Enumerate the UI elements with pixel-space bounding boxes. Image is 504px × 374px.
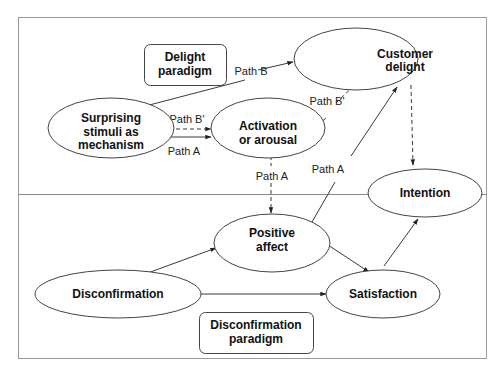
diagram-canvas: Delight paradigm Disconfirmation paradig… <box>0 0 504 374</box>
delight-paradigm-box: Delight paradigm <box>145 45 227 86</box>
node-positive-line-2: affect <box>256 240 288 254</box>
delight-paradigm-label-1: Delight <box>165 50 206 64</box>
edge-label-path-a-3: Path A <box>312 163 345 175</box>
node-activation-line-1: Activation <box>239 119 297 133</box>
edge-label-path-b-prime-1: Path B' <box>169 113 204 125</box>
node-surprising-line-3: mechanism <box>78 138 144 152</box>
node-positive-affect: Positive affect <box>214 214 330 272</box>
node-intention-line-1: Intention <box>400 186 451 200</box>
node-disconfirmation-line-1: Disconfirmation <box>72 287 163 301</box>
disconfirmation-paradigm-box: Disconfirmation paradigm <box>200 313 314 354</box>
node-delight-line-1: Customer <box>377 47 433 61</box>
disconfirmation-paradigm-label-2: paradigm <box>229 332 283 346</box>
delight-paradigm-label-2: paradigm <box>158 64 212 78</box>
node-surprising-line-2: stimuli as <box>83 125 139 139</box>
node-satisfaction: Satisfaction <box>326 270 440 318</box>
node-disconfirmation: Disconfirmation <box>35 270 201 318</box>
node-positive-line-1: Positive <box>249 226 295 240</box>
node-surprising-line-1: Surprising <box>81 111 141 125</box>
edge-label-path-b-prime-2: Path B' <box>309 95 344 107</box>
node-activation-line-2: or arousal <box>239 133 297 147</box>
edge-label-path-a-1: Path A <box>168 145 201 157</box>
edge-label-path-a-2: Path A <box>256 170 289 182</box>
edge-label-path-b: Path B <box>234 65 267 77</box>
node-delight-line-2: delight <box>385 60 424 74</box>
node-satisfaction-line-1: Satisfaction <box>349 287 417 301</box>
node-activation-arousal: Activation or arousal <box>211 98 325 158</box>
disconfirmation-paradigm-label-1: Disconfirmation <box>210 318 301 332</box>
node-intention: Intention <box>368 169 482 217</box>
node-surprising-stimuli: Surprising stimuli as mechanism <box>48 98 174 158</box>
